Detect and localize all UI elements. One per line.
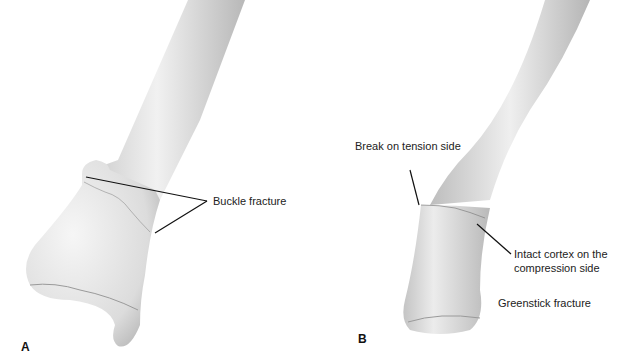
label-break-tension-side: Break on tension side (355, 140, 461, 153)
bone-b (403, 0, 590, 334)
panel-letter-a: A (21, 340, 30, 354)
label-buckle-fracture: Buckle fracture (213, 195, 286, 208)
panel-letter-b: B (358, 332, 367, 346)
bone-a (26, 0, 245, 347)
label-intact-cortex-line2: compression side (514, 262, 600, 275)
label-greenstick-fracture: Greenstick fracture (498, 297, 591, 310)
label-intact-cortex-line1: Intact cortex on the (514, 248, 608, 261)
